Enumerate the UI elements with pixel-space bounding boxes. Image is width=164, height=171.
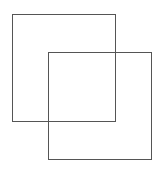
square-bottom-right bbox=[48, 52, 152, 160]
